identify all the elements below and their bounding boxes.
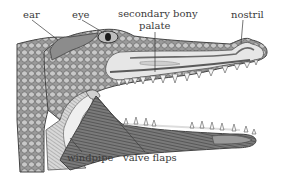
label-eye: eye: [72, 10, 90, 20]
label-secondary-bony: secondary bony: [118, 9, 198, 19]
label-palate: palate: [139, 21, 170, 31]
label-windpipe: windpipe: [67, 153, 114, 163]
ear-leader-line: [32, 20, 58, 40]
crocodile-head-diagram: ear eye secondary bony palate nostril wi…: [0, 0, 281, 181]
label-valve-flaps: valve flaps: [123, 153, 177, 163]
label-ear: ear: [23, 10, 40, 20]
label-nostril: nostril: [231, 10, 264, 20]
